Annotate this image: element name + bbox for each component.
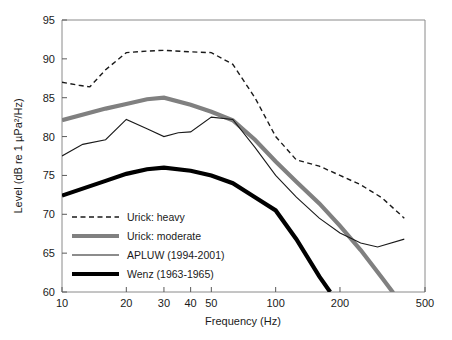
line-chart: 1020304050100200500 6065707580859095 Uri… [0, 0, 452, 340]
x-tick-label: 50 [205, 297, 217, 309]
legend-item-label: Urick: moderate [127, 230, 201, 242]
y-tick-label: 90 [43, 53, 55, 65]
x-tick-label: 200 [331, 297, 349, 309]
y-axis-title: Level (dB re 1 µPa²/Hz) [12, 98, 24, 213]
y-tick-label: 60 [43, 286, 55, 298]
x-tick-label: 20 [120, 297, 132, 309]
x-tick-label: 500 [416, 297, 434, 309]
x-axis-tick-labels: 1020304050100200500 [56, 297, 434, 309]
x-axis-title: Frequency (Hz) [205, 315, 281, 327]
legend-item-label: Urick: heavy [127, 211, 186, 223]
y-tick-label: 95 [43, 14, 55, 26]
legend-item-label: Wenz (1963-1965) [127, 268, 214, 280]
chart-figure: 1020304050100200500 6065707580859095 Uri… [0, 0, 452, 340]
y-tick-label: 75 [43, 169, 55, 181]
series-line [62, 98, 393, 293]
y-axis-tick-labels: 6065707580859095 [43, 14, 55, 298]
data-series-group [62, 50, 404, 292]
chart-legend: Urick: heavyUrick: moderateAPLUW (1994-2… [72, 211, 224, 280]
x-tick-label: 100 [266, 297, 284, 309]
y-tick-label: 85 [43, 92, 55, 104]
y-tick-label: 80 [43, 131, 55, 143]
axis-frame [62, 20, 425, 292]
x-tick-label: 30 [158, 297, 170, 309]
x-tick-label: 40 [185, 297, 197, 309]
x-tick-label: 10 [56, 297, 68, 309]
legend-item-label: APLUW (1994-2001) [127, 249, 224, 261]
series-line [62, 50, 404, 218]
x-axis-ticks [62, 287, 425, 292]
y-tick-label: 70 [43, 208, 55, 220]
y-tick-label: 65 [43, 247, 55, 259]
